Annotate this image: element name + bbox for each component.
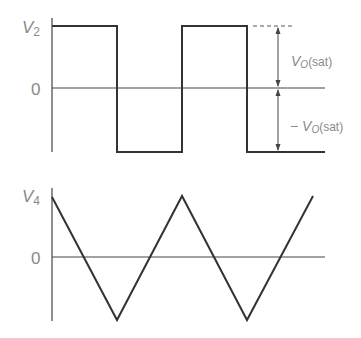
square-wave [52, 26, 325, 152]
vo-sat-label: VO(sat) [291, 53, 332, 70]
top-y-label: V2 [22, 18, 40, 39]
waveform-diagram: V2 0 VO(sat) − VO(sat) V4 0 [0, 0, 361, 338]
arrow-down-icon [276, 80, 281, 87]
arrow-up-icon [276, 89, 281, 96]
triangle-wave-plot: V4 0 [22, 187, 325, 321]
bottom-y-label: V4 [22, 187, 40, 208]
neg-vo-sat-label: − VO(sat) [290, 118, 343, 135]
top-zero-label: 0 [31, 80, 40, 99]
square-wave-plot: V2 0 VO(sat) − VO(sat) [22, 18, 343, 152]
bottom-zero-label: 0 [31, 249, 40, 268]
arrow-up-icon [276, 27, 281, 34]
arrow-down-icon [276, 144, 281, 151]
triangle-wave [52, 196, 313, 320]
